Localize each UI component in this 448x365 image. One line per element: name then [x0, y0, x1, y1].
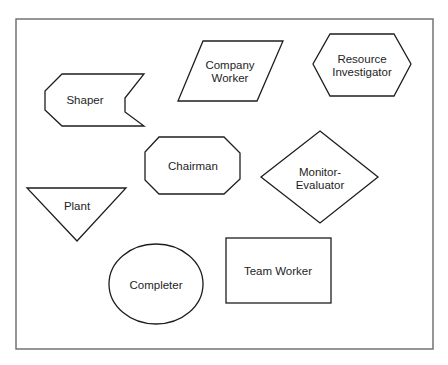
completer-label: Completer [129, 279, 182, 291]
team-roles-diagram: Shaper Company Worker Resource Investiga… [0, 0, 448, 365]
company-worker-label-line-2: Worker [212, 72, 249, 84]
shaper-label: Shaper [66, 94, 103, 106]
completer-node: Completer [109, 244, 203, 324]
company-worker-label-line-1: Company [205, 59, 254, 71]
resource-investigator-shape [313, 34, 411, 96]
team-worker-label: Team Worker [244, 265, 312, 277]
resource-investigator-label-line-2: Investigator [332, 66, 392, 78]
chairman-label: Chairman [168, 160, 218, 172]
resource-investigator-node: Resource Investigator [313, 34, 411, 96]
chairman-node: Chairman [145, 137, 240, 194]
plant-label: Plant [64, 200, 91, 212]
resource-investigator-label-line-1: Resource [337, 53, 386, 65]
monitor-evaluator-label-line-2: Evaluator [296, 179, 345, 191]
team-worker-node: Team Worker [226, 238, 331, 303]
monitor-evaluator-label-line-1: Monitor- [299, 166, 341, 178]
